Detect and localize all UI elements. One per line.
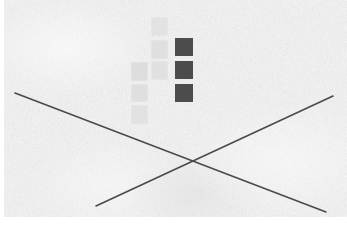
- scene-root: [0, 0, 347, 227]
- square-tile-dark: [175, 84, 193, 102]
- bottom-white-margin: [0, 217, 347, 227]
- left-white-margin: [0, 0, 4, 227]
- square-tile-light: [131, 62, 148, 81]
- textured-canvas-surface: [4, 0, 347, 217]
- square-tile-light: [151, 61, 168, 80]
- square-tile-dark: [175, 61, 193, 79]
- square-tile-dark: [175, 38, 193, 56]
- square-tile-light: [131, 105, 148, 124]
- square-tile-light: [151, 17, 168, 36]
- paper-noise-texture: [4, 0, 347, 217]
- square-tile-light: [151, 40, 168, 59]
- square-tile-light: [131, 84, 148, 102]
